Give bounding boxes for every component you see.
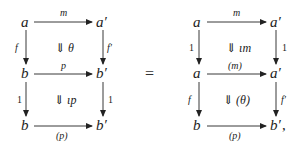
node-b-prime: b′ (270, 117, 282, 133)
left-diagram: a a′ b b′ b b′ m f f′ ⇓ θ p 1 1 ⇓ ιp (p) (15, 7, 113, 142)
cell-theta: ⇓ θ (55, 41, 74, 55)
node-a-prime: a′ (270, 14, 282, 30)
arrow-label-f: f (188, 94, 192, 105)
arrow-label-1: 1 (282, 42, 287, 53)
arrow-label-1: 1 (108, 94, 113, 105)
node-a: a (193, 65, 201, 81)
node-b: b (21, 117, 29, 133)
cell-iota-p: ⇓ ιp (54, 93, 76, 107)
equals-sign: = (145, 65, 154, 82)
node-a: a (21, 14, 29, 30)
arrow-label-p: p (60, 60, 66, 71)
commutative-diagram-equation: a a′ b b′ b b′ m f f′ ⇓ θ p 1 1 ⇓ ιp (p)… (0, 0, 303, 146)
arrow-label-1: 1 (17, 94, 22, 105)
cell-iota-m: ⇓ ιm (226, 41, 251, 55)
node-b-prime: b′ (96, 65, 108, 81)
arrow-label-f: f (15, 42, 19, 53)
arrow-label-paren-m: (m) (228, 60, 243, 72)
arrow-label-paren-p: (p) (229, 130, 241, 142)
arrow-label-m: m (233, 7, 240, 18)
arrow-label-paren-p: (p) (56, 130, 68, 142)
cell-paren-theta: ⇓ (θ) (223, 93, 250, 107)
node-a: a (193, 14, 201, 30)
arrow-label-1: 1 (189, 42, 194, 53)
arrow-label-m: m (60, 7, 67, 18)
node-a-prime: a′ (96, 14, 108, 30)
node-b-prime: b′ (96, 117, 108, 133)
right-diagram: a a′ a a′ b b′ , m 1 1 ⇓ ιm (m) f f′ ⇓ (… (188, 7, 287, 142)
node-a-prime: a′ (270, 65, 282, 81)
arrow-label-f-prime: f′ (107, 42, 113, 53)
arrow-label-f-prime: f′ (281, 94, 287, 105)
node-b: b (193, 117, 201, 133)
node-b: b (21, 65, 29, 81)
trailing-comma: , (282, 117, 286, 133)
